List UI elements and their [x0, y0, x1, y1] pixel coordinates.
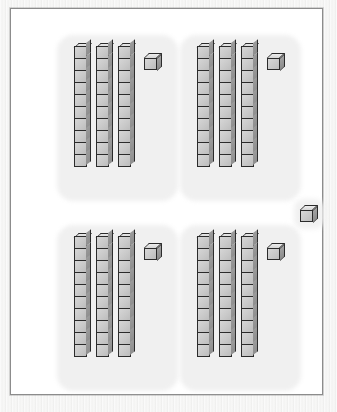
ten-rod [96, 47, 113, 167]
group-top-right [191, 47, 287, 187]
rod-side-face [108, 339, 113, 356]
cube-front-face [144, 248, 157, 261]
ten-rod [118, 237, 135, 357]
rod-side-face [253, 149, 258, 166]
loose-unit-cube [300, 205, 320, 225]
rod-unit-cube [96, 344, 109, 357]
rod-unit-cube [241, 344, 254, 357]
ten-rod [74, 237, 91, 357]
ten-rod [197, 47, 214, 167]
rod-unit-cube [118, 344, 131, 357]
group-unit-cube [267, 243, 280, 256]
ten-rod [118, 47, 135, 167]
ten-rod [219, 237, 236, 357]
group-bottom-left [68, 237, 164, 377]
rod-unit-cube [219, 154, 232, 167]
cube-front-face [300, 210, 313, 223]
rod-side-face [130, 339, 135, 356]
loose-unit-cube-body [300, 205, 313, 218]
rod-side-face [209, 149, 214, 166]
ten-rod [96, 237, 113, 357]
ten-rod [74, 47, 91, 167]
rod-unit-cube [118, 154, 131, 167]
cube-front-face [144, 58, 157, 71]
rod-unit-cube [241, 154, 254, 167]
rod-unit-cube [197, 154, 210, 167]
group-bottom-right [191, 237, 287, 377]
group-unit-cube [267, 53, 280, 66]
rod-side-face [86, 149, 91, 166]
cube-front-face [267, 58, 280, 71]
image-canvas [11, 9, 322, 394]
group-blocks [191, 237, 287, 377]
base-ten-blocks-image [0, 0, 337, 412]
rod-side-face [108, 149, 113, 166]
ten-rod [241, 237, 258, 357]
rod-unit-cube [74, 344, 87, 357]
rod-side-face [253, 339, 258, 356]
rod-unit-cube [74, 154, 87, 167]
rod-unit-cube [219, 344, 232, 357]
rod-side-face [86, 339, 91, 356]
cube-front-face [267, 248, 280, 261]
rod-side-face [231, 149, 236, 166]
rod-side-face [231, 339, 236, 356]
group-blocks [68, 47, 164, 187]
group-blocks [68, 237, 164, 377]
group-unit-cube [144, 53, 157, 66]
rod-side-face [209, 339, 214, 356]
group-unit-cube [144, 243, 157, 256]
image-frame-border [10, 8, 323, 395]
rod-unit-cube [197, 344, 210, 357]
rod-side-face [130, 149, 135, 166]
group-blocks [191, 47, 287, 187]
ten-rod [241, 47, 258, 167]
ten-rod [197, 237, 214, 357]
group-top-left [68, 47, 164, 187]
ten-rod [219, 47, 236, 167]
rod-unit-cube [96, 154, 109, 167]
